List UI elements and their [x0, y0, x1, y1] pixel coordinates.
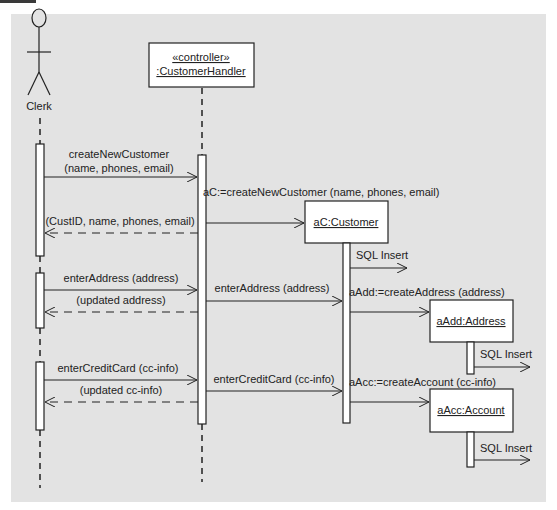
return-label-custid: (CustID, name, phones, email) [45, 215, 194, 227]
message-label-create-account: aAcc:=createAccount (cc-info) [349, 376, 496, 388]
object-label-customer: aC:Customer [314, 216, 379, 228]
actor-clerk [27, 9, 51, 95]
activation-clerk-2 [36, 273, 44, 328]
activation-clerk-3 [36, 362, 44, 430]
message-label-enter-credit-card: enterCreditCard (cc-info) [57, 362, 178, 374]
activation-clerk-1 [36, 144, 44, 256]
object-label-address: aAdd:Address [436, 315, 506, 327]
activation-address [467, 342, 474, 374]
activation-customer [343, 243, 350, 423]
message-label-create-new-customer-args: (name, phones, email) [64, 162, 173, 174]
message-label-enter-credit-card-customer: enterCreditCard (cc-info) [213, 373, 334, 385]
message-label-create-new-customer: createNewCustomer [69, 148, 170, 160]
stereotype-controller: «controller» [172, 51, 229, 63]
message-label-enter-address-customer: enterAddress (address) [215, 282, 330, 294]
sequence-diagram: Clerk «controller» :CustomerHandler aC:C… [0, 0, 557, 510]
message-label-sql-insert-address: SQL Insert [480, 348, 532, 360]
message-label-sql-insert-account: SQL Insert [480, 442, 532, 454]
object-label-account: aAcc:Account [437, 404, 504, 416]
actor-leg-right [39, 72, 50, 95]
return-label-updated-cc-info: (updated cc-info) [80, 384, 163, 396]
message-label-create-address: aAdd:=createAddress (address) [349, 286, 505, 298]
message-label-sql-insert-customer: SQL Insert [356, 249, 408, 261]
actor-head [32, 9, 46, 27]
actor-label-clerk: Clerk [26, 100, 52, 112]
message-label-enter-address: enterAddress (address) [64, 272, 179, 284]
actor-leg-left [28, 72, 39, 95]
return-label-updated-address: (updated address) [76, 294, 165, 306]
message-label-create-customer-object: aC:=createNewCustomer (name, phones, ema… [203, 186, 439, 198]
object-label-customer-handler: :CustomerHandler [156, 65, 246, 77]
activation-account [467, 432, 474, 467]
